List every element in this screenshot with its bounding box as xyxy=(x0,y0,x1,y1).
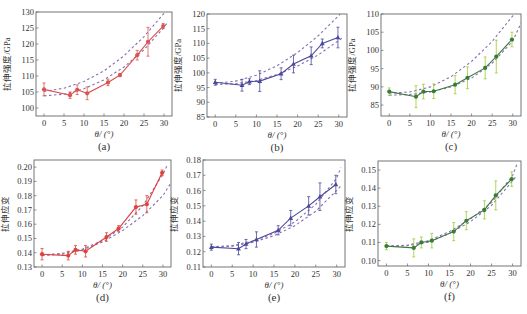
x-axis-label: θ/ (°) xyxy=(440,279,459,289)
circle-marker-icon xyxy=(145,202,149,206)
fit-curves xyxy=(42,166,171,256)
circle-marker-icon xyxy=(73,248,77,252)
circle-marker-icon xyxy=(510,37,514,41)
x-tick-label: 25 xyxy=(139,269,148,279)
circle-marker-icon xyxy=(430,239,434,243)
x-tick-label: 25 xyxy=(312,269,321,279)
y-tick-label: 0.10 xyxy=(361,256,376,266)
y-tick-label: 0.12 xyxy=(361,219,376,229)
circle-marker-icon xyxy=(161,24,165,28)
circle-marker-icon xyxy=(414,95,418,99)
x-axis-label: θ/ (°) xyxy=(268,130,287,140)
panel-a: 051015202530100105110115120125130 拉伸强度/G… xyxy=(2,7,172,153)
axis-ticks: 051015202530100105110115120125130 xyxy=(21,7,168,128)
x-tick-label: 10 xyxy=(426,118,435,128)
x-tick-label: 5 xyxy=(230,269,234,279)
circle-marker-icon xyxy=(85,91,89,95)
y-tick-label: 100 xyxy=(21,103,34,113)
x-tick-label: 20 xyxy=(467,118,476,128)
y-axis-label: 拉伸强度/GPa xyxy=(347,38,357,91)
axis-ticks: 0510152025300.110.120.130.140.150.160.17… xyxy=(186,155,341,279)
y-tick-label: 105 xyxy=(192,53,205,63)
x-tick-label: 20 xyxy=(118,269,127,279)
x-tick-label: 5 xyxy=(408,118,412,128)
fit-curve xyxy=(386,165,516,247)
y-tick-label: 0.14 xyxy=(186,216,202,226)
plot-frame xyxy=(203,160,345,267)
y-tick-label: 0.19 xyxy=(17,176,32,186)
y-tick-label: 90 xyxy=(371,82,380,92)
y-tick-label: 0.17 xyxy=(186,170,201,180)
x-tick-label: 10 xyxy=(80,118,89,128)
axis-ticks: 0510152025300.100.110.120.130.140.15 xyxy=(361,165,517,278)
y-tick-label: 90 xyxy=(197,97,206,107)
x-tick-label: 30 xyxy=(332,269,341,279)
axes-box xyxy=(203,160,345,267)
y-axis-label: 拉伸应变 xyxy=(0,196,10,232)
y-tick-label: 0.11 xyxy=(186,262,201,272)
x-tick-label: 0 xyxy=(209,269,213,279)
panel-f: 0510152025300.100.110.120.130.140.15 拉伸应… xyxy=(344,161,521,303)
y-tick-label: 0.14 xyxy=(361,183,377,193)
circle-marker-icon xyxy=(482,208,486,212)
x-tick-label: 15 xyxy=(98,269,107,279)
y-tick-label: 0.14 xyxy=(17,248,33,258)
y-tick-label: 105 xyxy=(366,27,379,37)
circle-marker-icon xyxy=(135,53,139,57)
x-tick-label: 15 xyxy=(270,269,279,279)
fit-curve xyxy=(42,166,167,255)
x-tick-label: 15 xyxy=(100,118,109,128)
x-axis-label: θ/ (°) xyxy=(95,129,114,139)
x-axis-label: θ/ (°) xyxy=(442,129,461,139)
circle-marker-icon xyxy=(384,244,388,248)
y-tick-label: 115 xyxy=(22,55,34,65)
circle-marker-icon xyxy=(68,93,72,97)
panel-e: 0510152025300.110.120.130.140.150.160.17… xyxy=(169,155,345,304)
x-tick-label: 15 xyxy=(445,268,454,278)
measured-line xyxy=(42,173,162,256)
x-tick-label: 30 xyxy=(160,118,169,128)
circle-marker-icon xyxy=(465,76,469,80)
axis-ticks: 051015202530859095100105110 xyxy=(366,9,517,128)
y-tick-label: 0.13 xyxy=(17,262,32,272)
circle-marker-icon xyxy=(483,66,487,70)
circle-marker-icon xyxy=(42,87,46,91)
measured-line xyxy=(211,185,335,249)
fit-curve xyxy=(389,10,517,93)
y-axis-label: 拉伸应变 xyxy=(344,196,354,232)
y-tick-label: 105 xyxy=(21,87,34,97)
y-tick-label: 115 xyxy=(193,24,205,34)
data-series xyxy=(40,170,164,260)
circle-marker-icon xyxy=(453,83,457,87)
x-tick-label: 10 xyxy=(424,268,433,278)
data-series xyxy=(387,32,514,107)
measured-line xyxy=(386,179,511,248)
x-tick-label: 25 xyxy=(140,118,149,128)
x-tick-label: 25 xyxy=(314,119,323,129)
circle-marker-icon xyxy=(412,246,416,250)
circle-marker-icon xyxy=(75,88,79,92)
x-tick-label: 0 xyxy=(387,118,391,128)
fit-curves xyxy=(211,168,340,248)
panel-b: 051015202530859095100105110115120 拉伸强度/G… xyxy=(173,9,347,154)
y-tick-label: 0.18 xyxy=(17,191,32,201)
x-tick-label: 5 xyxy=(405,268,409,278)
circle-marker-icon xyxy=(104,235,108,239)
x-tick-label: 30 xyxy=(159,269,168,279)
y-tick-label: 110 xyxy=(193,38,205,48)
x-tick-label: 5 xyxy=(60,269,64,279)
axes-box xyxy=(207,14,347,117)
fit-curve xyxy=(386,176,516,247)
circle-marker-icon xyxy=(66,253,70,257)
panel-label: (b) xyxy=(271,141,284,154)
panel-d: 0510152025300.130.140.150.160.170.180.19… xyxy=(0,160,171,304)
x-tick-label: 15 xyxy=(447,118,456,128)
y-tick-label: 0.18 xyxy=(186,155,201,165)
y-tick-label: 95 xyxy=(197,83,206,93)
panel-label: (d) xyxy=(96,291,109,304)
circle-marker-icon xyxy=(83,249,87,253)
y-tick-label: 110 xyxy=(367,9,379,19)
y-tick-label: 0.12 xyxy=(186,247,201,257)
plot-frame xyxy=(34,160,171,267)
x-axis-label: θ/ (°) xyxy=(265,280,284,290)
